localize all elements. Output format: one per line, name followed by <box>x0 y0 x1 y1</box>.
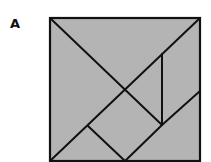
tangram-diagram <box>0 0 211 162</box>
